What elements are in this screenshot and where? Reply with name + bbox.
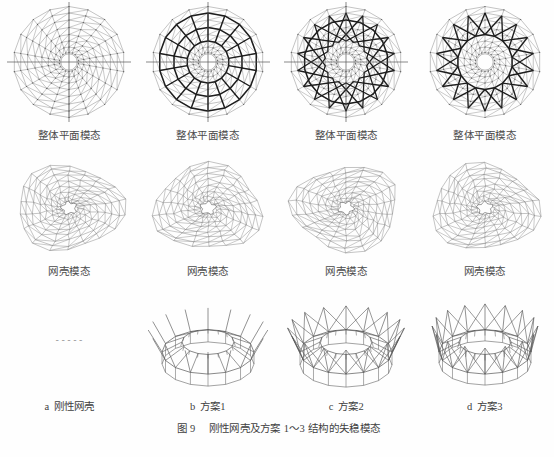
caption-letter: a: [44, 401, 49, 412]
caption-d: d方案3: [416, 398, 554, 413]
cell-label: 整体平面模态: [453, 130, 516, 142]
cell-shell-b: 网壳模态: [139, 160, 278, 290]
shell-mode-scheme3-diagram: [419, 160, 551, 264]
cable-ring-scheme2-diagram: [279, 290, 413, 398]
cell-label: 网壳模态: [187, 266, 229, 278]
caption-c: c方案2: [277, 398, 416, 413]
cell-shell-d: 网壳模态: [416, 160, 554, 290]
cell-label: 整体平面模态: [315, 130, 378, 142]
caption-text: 方案1: [200, 401, 225, 412]
caption-letter: d: [467, 401, 472, 412]
plan-mesh-scheme3-diagram: [420, 0, 550, 128]
cell-label: 网壳模态: [48, 266, 90, 278]
cell-label: 整体平面模态: [176, 130, 239, 142]
caption-text: 刚性网壳: [54, 401, 94, 412]
cable-ring-scheme3-diagram: [418, 290, 552, 398]
caption-text: 方案2: [338, 401, 363, 412]
plan-mesh-scheme2-diagram: [281, 0, 411, 128]
caption-text: 方案3: [477, 401, 502, 412]
cell-persp-d: [416, 290, 554, 400]
cell-plan-c: 整体平面模态: [277, 0, 416, 160]
caption-letter: c: [329, 401, 334, 412]
cell-label: 网壳模态: [464, 266, 506, 278]
empty-placeholder-dashes: -----: [54, 336, 84, 346]
caption-row: a刚性网壳 b方案1 c方案2 d方案3: [0, 398, 554, 413]
caption-a: a刚性网壳: [0, 398, 139, 413]
figure-title-text: 刚性网壳及方案 1～3 结构的失稳模态: [209, 423, 380, 434]
figure-number: 图 9: [177, 423, 196, 434]
cell-plan-b: 整体平面模态: [139, 0, 278, 160]
shell-mode-scheme1-diagram: [142, 160, 274, 264]
cell-persp-c: [277, 290, 416, 400]
cell-plan-a: 整体平面模态: [0, 0, 139, 160]
cell-persp-b: [139, 290, 278, 400]
plan-mesh-scheme1-diagram: [143, 0, 273, 128]
cell-label: 整体平面模态: [38, 130, 101, 142]
cell-shell-c: 网壳模态: [277, 160, 416, 290]
shell-mode-rigid-shell-diagram: [3, 160, 135, 264]
row-cable-strut-perspective: -----: [0, 290, 554, 400]
shell-mode-scheme2-diagram: [280, 160, 412, 264]
row-overall-plane-mode: 整体平面模态 整体平面模态 整体平面模态 整体平面模态: [0, 0, 554, 160]
figure-grid: 整体平面模态 整体平面模态 整体平面模态 整体平面模态: [0, 0, 554, 400]
caption-b: b方案1: [139, 398, 278, 413]
cell-shell-a: 网壳模态: [0, 160, 139, 290]
figure-caption-title: 图 9刚性网壳及方案 1～3 结构的失稳模态: [0, 420, 554, 435]
figure-9-container: 整体平面模态 整体平面模态 整体平面模态 整体平面模态: [0, 0, 554, 457]
caption-letter: b: [190, 401, 195, 412]
cable-ring-scheme1-diagram: [141, 290, 275, 398]
row-latticed-shell-mode: 网壳模态 网壳模态 网壳模态 网壳模态: [0, 160, 554, 290]
cell-plan-d: 整体平面模态: [416, 0, 554, 160]
cell-persp-a: -----: [0, 290, 139, 400]
plan-mesh-rigid-shell-diagram: [4, 0, 134, 128]
cell-label: 网壳模态: [325, 266, 367, 278]
